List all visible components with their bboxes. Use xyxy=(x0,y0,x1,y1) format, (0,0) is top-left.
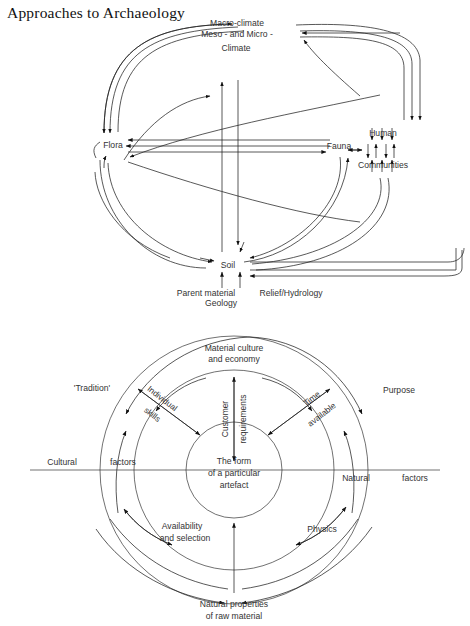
node-material-culture-line2: and economy xyxy=(208,354,260,364)
node-fauna: Fauna xyxy=(327,141,352,151)
center-line3: artefact xyxy=(220,480,249,490)
spoke-availability-line1: Availability xyxy=(162,521,203,531)
node-soil: Soil xyxy=(221,260,235,270)
spoke-customer-line1: Customer xyxy=(220,401,230,438)
node-geology: Geology xyxy=(205,298,238,308)
spoke-customer-line2: requirements xyxy=(238,395,248,444)
node-human: Human xyxy=(369,128,397,138)
spoke-individual-line2: skills xyxy=(142,405,162,424)
node-parent-material: Parent material xyxy=(177,288,235,298)
figure-2-artefact: Material culture and economy 'Tradition'… xyxy=(0,315,470,626)
node-macro-climate: Macro-climate xyxy=(210,18,264,28)
node-communities: Communities xyxy=(358,160,408,170)
node-relief-hydrology: Relief/Hydrology xyxy=(259,288,323,298)
axis-label-cultural: Cultural xyxy=(47,457,77,467)
center-line2: of a particular xyxy=(208,468,260,478)
axis-label-natural: Natural xyxy=(342,473,370,483)
spoke-physics: Physics xyxy=(307,524,337,534)
node-natural-properties-line2: of raw material xyxy=(206,611,262,621)
spoke-time-line1: Time xyxy=(301,389,322,408)
node-meso-micro: Meso - and Micro - xyxy=(201,29,273,39)
spoke-availability-line2: and selection xyxy=(160,533,211,543)
center-line1: The form xyxy=(217,456,251,466)
node-flora: Flora xyxy=(103,140,123,150)
axis-label-cultural-factors: factors xyxy=(110,457,136,467)
node-tradition: 'Tradition' xyxy=(74,383,111,393)
node-climate: Climate xyxy=(221,43,250,53)
node-material-culture-line1: Material culture xyxy=(205,343,264,353)
page-root: Approaches to Archaeology xyxy=(0,0,470,626)
figure-1-ecosystem: Macro-climate Meso - and Micro - Climate… xyxy=(0,0,470,315)
node-natural-properties-line1: Natural properties xyxy=(200,599,268,609)
node-purpose: Purpose xyxy=(383,385,415,395)
axis-label-natural-factors: factors xyxy=(402,473,428,483)
